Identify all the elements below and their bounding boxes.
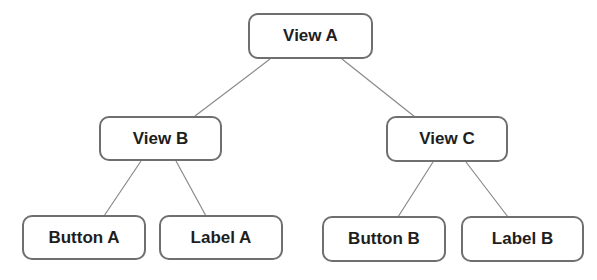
view-hierarchy-diagram: View A View B View C Button A Label A Bu… [0, 0, 597, 280]
edge-view-b-to-button-a [104, 161, 141, 216]
node-label-a: Label A [159, 215, 283, 260]
node-button-a: Button A [22, 215, 146, 260]
edge-view-c-to-label-b [466, 162, 508, 217]
node-label-a-label: Label A [191, 228, 252, 248]
node-view-a: View A [248, 13, 373, 59]
node-view-b: View B [99, 116, 222, 161]
edge-view-a-to-view-c [342, 59, 415, 117]
node-button-b: Button B [322, 216, 446, 262]
edge-view-c-to-button-b [398, 162, 433, 217]
node-view-b-label: View B [133, 129, 188, 149]
node-label-b: Label B [461, 216, 584, 262]
node-view-a-label: View A [283, 26, 338, 46]
node-button-b-label: Button B [348, 229, 420, 249]
node-view-c: View C [386, 116, 508, 162]
node-label-b-label: Label B [492, 229, 553, 249]
node-view-c-label: View C [419, 129, 474, 149]
edge-view-b-to-label-a [176, 161, 206, 216]
node-button-a-label: Button A [48, 228, 119, 248]
edge-view-a-to-view-b [195, 59, 270, 116]
